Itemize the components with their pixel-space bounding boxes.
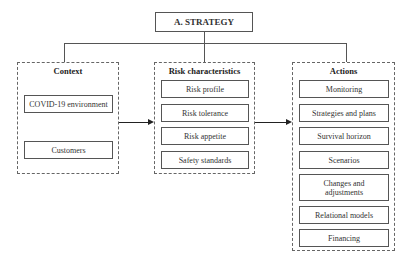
actions-branch-line: [346, 43, 347, 62]
tree-horizontal-line: [64, 43, 347, 44]
strategy-root-label: A. STRATEGY: [174, 18, 234, 27]
context-item-customers: Customers: [24, 141, 113, 159]
risk-item-tolerance: Risk tolerance: [161, 104, 249, 122]
risk-item-safety-standards: Safety standards: [161, 151, 249, 169]
arrow-risk-to-actions: [255, 122, 286, 123]
risk-branch-line: [204, 43, 205, 62]
action-item-relational-models: Relational models: [299, 206, 389, 224]
action-item-monitoring: Monitoring: [299, 80, 389, 98]
action-item-survival-horizon: Survival horizon: [299, 127, 389, 145]
action-item-changes-adjustments: Changes and adjustments: [299, 174, 389, 201]
context-item-covid: COVID-19 environment: [24, 95, 113, 113]
action-item-financing: Financing: [299, 229, 389, 247]
action-item-strategies-plans: Strategies and plans: [299, 104, 389, 122]
arrow-context-to-risk: [119, 122, 148, 123]
context-branch-line: [64, 43, 65, 62]
root-stem-line: [204, 32, 205, 43]
risk-item-profile: Risk profile: [161, 80, 249, 98]
context-title: Context: [17, 66, 119, 76]
risk-item-appetite: Risk appetite: [161, 127, 249, 145]
action-item-scenarios: Scenarios: [299, 151, 389, 169]
actions-title: Actions: [292, 66, 395, 76]
risk-characteristics-title: Risk characteristics: [154, 66, 255, 76]
strategy-root-box: A. STRATEGY: [155, 12, 253, 32]
